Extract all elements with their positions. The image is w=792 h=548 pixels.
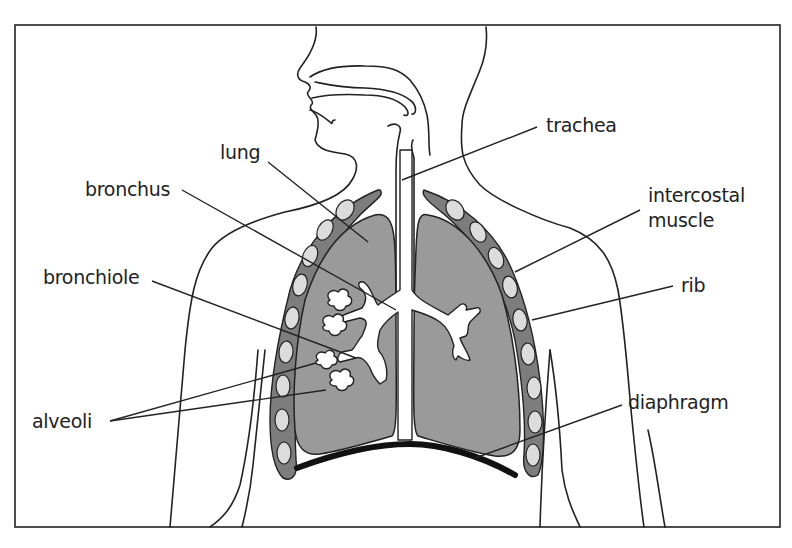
label-bronchiole: bronchiole [43,266,139,288]
label-alveoli: alveoli [32,410,92,432]
label-bronchus: bronchus [85,178,170,200]
label-diaphragm: diaphragm [628,391,728,413]
leader-intercostal [515,210,640,272]
label-intercostal-muscle-line2: muscle [648,209,714,231]
label-rib: rib [681,274,705,296]
leader-rib [532,286,673,320]
label-intercostal-muscle-line1: intercostal [648,184,745,206]
label-trachea: trachea [546,114,617,136]
label-lung: lung [220,141,260,163]
